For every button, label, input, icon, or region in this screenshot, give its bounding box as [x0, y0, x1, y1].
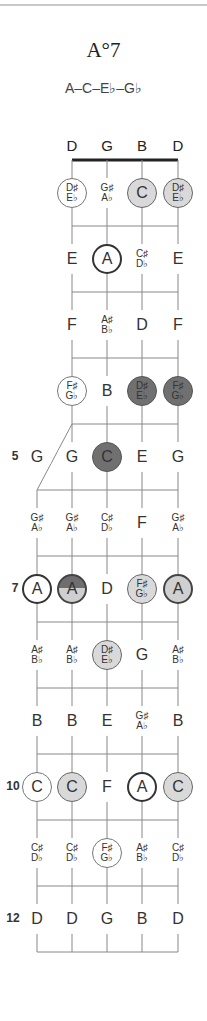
note-label: C [136, 185, 148, 201]
note-fret8-string3: G [127, 640, 157, 670]
note-fret1-string1: D♯E♭ [57, 178, 87, 208]
note-fret10-string0: C [22, 772, 52, 802]
note-label-enharmonic: G♭ [66, 391, 79, 401]
note-fret5-string0: G [22, 442, 52, 472]
note-label: F [102, 779, 112, 795]
note-fret10-string1: C [57, 772, 87, 802]
note-fret3-string1: F [57, 310, 87, 340]
note-fret7-string0: A [22, 574, 52, 604]
note-label: C [31, 779, 43, 795]
note-label-enharmonic: D♭ [66, 853, 78, 863]
note-fret5-string1: G [57, 442, 87, 472]
note-fret9-string1: B [57, 706, 87, 736]
note-label: E [173, 251, 184, 267]
note-label-enharmonic: G♭ [136, 589, 149, 599]
note-label: F [67, 317, 77, 333]
note-fret5-string3: E [127, 442, 157, 472]
note-fret10-string4: C [163, 772, 193, 802]
note-label-enharmonic: E♭ [101, 655, 113, 665]
note-fret1-string4: D♯E♭ [163, 178, 193, 208]
note-fret7-string1: A [57, 574, 87, 604]
note-fret1-string3: C [127, 178, 157, 208]
note-fret7-string4: A [163, 574, 193, 604]
fret-number-12: 12 [3, 911, 23, 925]
note-fret8-string0: A♯B♭ [22, 640, 52, 670]
note-fret8-string1: A♯B♭ [57, 640, 87, 670]
note-label: C [172, 779, 184, 795]
note-fret1-string2: G♯A♭ [92, 178, 122, 208]
note-label: B [67, 713, 78, 729]
note-fret5-string2: C [92, 442, 122, 472]
note-label: B [173, 713, 184, 729]
note-label: G [31, 449, 43, 465]
note-label: E [137, 449, 148, 465]
note-fret2-string3: C♯D♭ [127, 244, 157, 274]
note-fret3-string4: F [163, 310, 193, 340]
note-label-enharmonic: E♭ [136, 391, 148, 401]
note-label: A [173, 581, 184, 597]
note-label: F [173, 317, 183, 333]
note-fret2-string4: E [163, 244, 193, 274]
note-label: D [172, 911, 184, 927]
note-label-enharmonic: B♭ [136, 853, 148, 863]
note-fret9-string4: B [163, 706, 193, 736]
note-label: D [31, 911, 43, 927]
note-fret12-string2: G [92, 904, 122, 934]
note-fret8-string2: D♯E♭ [92, 640, 122, 670]
note-fret11-string1: C♯D♭ [57, 838, 87, 868]
note-label: B [102, 383, 113, 399]
note-fret11-string4: C♯D♭ [163, 838, 193, 868]
note-fret7-string2: D [92, 574, 122, 604]
note-fret10-string2: F [92, 772, 122, 802]
note-fret9-string0: B [22, 706, 52, 736]
note-label-enharmonic: D♭ [101, 523, 113, 533]
note-label: G [172, 449, 184, 465]
note-fret4-string3: D♯E♭ [127, 376, 157, 406]
note-label: G [136, 647, 148, 663]
note-fret2-string1: E [57, 244, 87, 274]
fret-number-10: 10 [3, 779, 23, 793]
note-label-enharmonic: G♭ [101, 853, 114, 863]
note-label: F [137, 515, 147, 531]
note-label: A [102, 251, 113, 267]
note-fret5-string4: G [163, 442, 193, 472]
note-label: C [66, 779, 78, 795]
note-label-enharmonic: A♭ [136, 721, 148, 731]
note-label: E [67, 251, 78, 267]
note-fret9-string2: E [92, 706, 122, 736]
note-label: G [66, 449, 78, 465]
note-label-enharmonic: D♭ [172, 853, 184, 863]
note-label: D [101, 581, 113, 597]
note-fret4-string2: B [92, 376, 122, 406]
note-fret6-string1: G♯A♭ [57, 508, 87, 538]
note-label-enharmonic: D♭ [31, 853, 43, 863]
note-label-enharmonic: G♭ [172, 391, 185, 401]
note-fret6-string2: C♯D♭ [92, 508, 122, 538]
note-label: A [137, 779, 148, 795]
note-label: D [66, 911, 78, 927]
note-fret3-string2: A♯B♭ [92, 310, 122, 340]
note-label: B [137, 911, 148, 927]
note-label: C [101, 449, 113, 465]
note-label-enharmonic: B♭ [66, 655, 78, 665]
note-label-enharmonic: A♭ [66, 523, 78, 533]
note-label-enharmonic: D♭ [136, 259, 148, 269]
note-label: E [102, 713, 113, 729]
note-fret7-string3: F♯G♭ [127, 574, 157, 604]
note-fret4-string4: F♯G♭ [163, 376, 193, 406]
note-label: G [101, 911, 113, 927]
note-label-enharmonic: A♭ [172, 523, 184, 533]
note-fret6-string3: F [127, 508, 157, 538]
note-label: A [67, 581, 78, 597]
note-label: D [136, 317, 148, 333]
note-label-enharmonic: A♭ [31, 523, 43, 533]
note-fret3-string3: D [127, 310, 157, 340]
note-label-enharmonic: B♭ [172, 655, 184, 665]
note-label-enharmonic: B♭ [31, 655, 43, 665]
note-fret12-string1: D [57, 904, 87, 934]
note-fret4-string1: F♯G♭ [57, 376, 87, 406]
note-fret10-string3: A [127, 772, 157, 802]
note-fret2-string2: A [92, 244, 122, 274]
note-fret12-string0: D [22, 904, 52, 934]
note-fret8-string4: A♯B♭ [163, 640, 193, 670]
